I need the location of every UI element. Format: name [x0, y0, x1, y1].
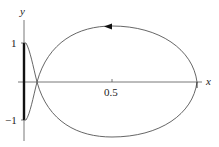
y-tick-label-minus1: −1 — [5, 114, 17, 126]
direction-arrow-icon — [104, 24, 112, 30]
x-tick-label-0.5: 0.5 — [104, 86, 118, 98]
phase-plot: y x 0.5 1 −1 — [0, 0, 219, 147]
y-tick-label-1: 1 — [11, 37, 17, 49]
x-axis-label: x — [205, 75, 211, 87]
y-axis-label: y — [19, 5, 25, 17]
trajectory-curve — [24, 26, 197, 137]
